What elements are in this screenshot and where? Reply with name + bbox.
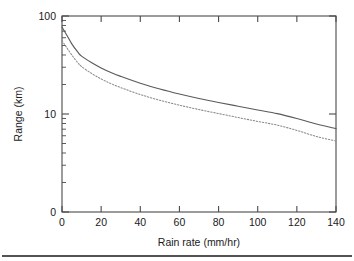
x-axis-title: Rain rate (mm/hr) [158, 236, 240, 248]
x-tick-label: 0 [59, 216, 65, 228]
y-axis-title: Range (km) [12, 87, 24, 142]
figure-container: 100100 020406080100120140 Rain rate (mm/… [0, 0, 354, 261]
x-tick-label: 120 [288, 216, 306, 228]
x-tick-label: 100 [249, 216, 267, 228]
x-tick-label: 20 [95, 216, 107, 228]
y-tick-label: 0 [50, 206, 56, 218]
x-tick-label: 140 [327, 216, 345, 228]
y-tick-label: 10 [44, 108, 56, 120]
x-tick-label: 80 [213, 216, 225, 228]
rain-rate-range-chart: 100100 020406080100120140 Rain rate (mm/… [0, 0, 354, 261]
x-tick-label: 40 [134, 216, 146, 228]
x-tick-label: 60 [174, 216, 186, 228]
y-tick-label: 100 [38, 10, 56, 22]
